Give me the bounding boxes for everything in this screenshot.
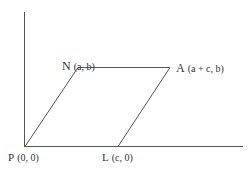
vertex-label-p: P(0, 0): [8, 151, 39, 164]
vertex-label-n: N(a, b): [62, 59, 95, 73]
vertex-label-l: L(c, 0): [102, 151, 133, 164]
vertex-coords-a: (a + c, b): [188, 63, 224, 75]
vertex-coords-n: (a, b): [74, 61, 95, 73]
vertex-coords-p: (0, 0): [17, 152, 39, 164]
parallelogram-PLAN: [25, 68, 170, 147]
coordinate-diagram: N(a, b) A(a + c, b) P(0, 0) L(c, 0): [0, 0, 252, 174]
vertex-label-a: A(a + c, b): [176, 61, 224, 75]
vertex-coords-l: (c, 0): [112, 152, 133, 164]
